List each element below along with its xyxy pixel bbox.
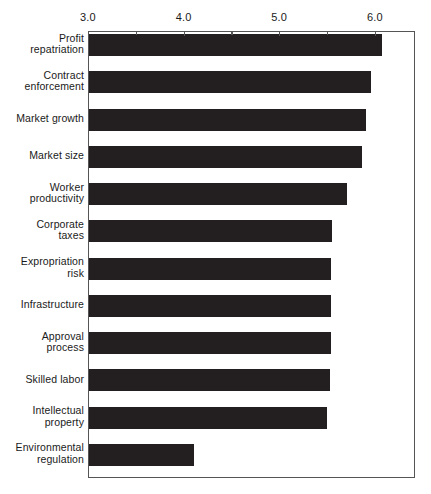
axis-tick-label: 6.0 bbox=[367, 11, 383, 23]
category-label-line: repatriation bbox=[0, 44, 84, 56]
bar bbox=[89, 295, 331, 317]
category-label: Intellectualproperty bbox=[0, 405, 84, 428]
category-label-line: Expropriation bbox=[0, 256, 84, 268]
bar bbox=[89, 220, 332, 242]
category-label: Approvalprocess bbox=[0, 331, 84, 354]
axis-tick-major bbox=[375, 31, 376, 36]
category-label-line: taxes bbox=[0, 230, 84, 242]
axis-tick-label: 5.0 bbox=[271, 11, 287, 23]
plot-area bbox=[88, 31, 415, 478]
bar-chart: ProfitrepatriationContractenforcementMar… bbox=[0, 0, 431, 494]
bar bbox=[89, 71, 371, 93]
category-label: Infrastructure bbox=[0, 299, 84, 311]
axis-tick-major bbox=[88, 31, 89, 36]
category-label: Market growth bbox=[0, 113, 84, 125]
category-label-line: Infrastructure bbox=[0, 299, 84, 311]
category-axis: ProfitrepatriationContractenforcementMar… bbox=[0, 31, 84, 478]
bar bbox=[89, 332, 331, 354]
category-label-line: property bbox=[0, 417, 84, 429]
axis-tick-minor bbox=[136, 31, 137, 35]
category-label-line: enforcement bbox=[0, 81, 84, 93]
category-label: Contractenforcement bbox=[0, 70, 84, 93]
axis-tick-major bbox=[279, 31, 280, 36]
category-label: Environmentalregulation bbox=[0, 442, 84, 465]
category-label: Market size bbox=[0, 150, 84, 162]
bar bbox=[89, 369, 330, 391]
category-label: Profitrepatriation bbox=[0, 33, 84, 56]
category-label-line: Skilled labor bbox=[0, 374, 84, 386]
category-label-line: Market size bbox=[0, 150, 84, 162]
bar bbox=[89, 444, 194, 466]
category-label: Skilled labor bbox=[0, 374, 84, 386]
axis-tick-minor bbox=[231, 31, 232, 35]
category-label-line: regulation bbox=[0, 454, 84, 466]
axis-tick-label: 4.0 bbox=[176, 11, 192, 23]
category-label-line: Intellectual bbox=[0, 405, 84, 417]
axis-tick-label: 3.0 bbox=[80, 11, 96, 23]
bar bbox=[89, 258, 331, 280]
category-label: Workerproductivity bbox=[0, 182, 84, 205]
bar bbox=[89, 34, 382, 56]
category-label: Corporatetaxes bbox=[0, 219, 84, 242]
category-label-line: Market growth bbox=[0, 113, 84, 125]
bar bbox=[89, 109, 366, 131]
category-label-line: risk bbox=[0, 268, 84, 280]
bar bbox=[89, 146, 362, 168]
axis-tick-major bbox=[184, 31, 185, 36]
bar bbox=[89, 407, 327, 429]
category-label-line: process bbox=[0, 342, 84, 354]
axis-tick-minor bbox=[327, 31, 328, 35]
category-label: Expropriationrisk bbox=[0, 256, 84, 279]
bar bbox=[89, 183, 347, 205]
category-label-line: productivity bbox=[0, 193, 84, 205]
